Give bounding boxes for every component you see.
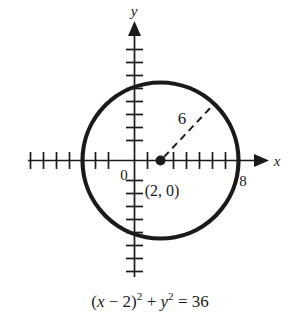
y-axis-group <box>126 21 143 277</box>
equation-caption: (x − 2)2 + y2 = 36 <box>0 292 300 312</box>
origin-label: 0 <box>120 167 128 183</box>
x-axis-label: x <box>273 153 281 169</box>
equation-right-hand-side: 36 <box>192 292 209 311</box>
equation-constant: 2 <box>123 292 132 311</box>
equation-equals-sign: = <box>174 292 192 311</box>
equation-minus-sign: − <box>105 292 123 311</box>
equation-plus-sign: + <box>142 292 160 311</box>
x-axis-group <box>28 152 269 169</box>
center-point-label: (2, 0) <box>145 182 180 200</box>
center-point-dot <box>156 156 166 166</box>
coordinate-plane-svg: x y 0 (2, 0) 6 8 <box>0 0 300 290</box>
radius-dashed-segment <box>164 104 214 157</box>
x-axis-arrowhead <box>254 154 269 167</box>
x-intercept-label: 8 <box>239 173 247 189</box>
radius-label: 6 <box>178 109 187 128</box>
equation-y-variable: y <box>160 292 168 311</box>
y-axis-label: y <box>129 3 138 19</box>
circle-graph-figure: x y 0 (2, 0) 6 8 (x − 2)2 + y2 = 36 <box>0 0 300 327</box>
y-axis-arrowhead <box>128 21 141 36</box>
equation-x-variable: x <box>97 292 105 311</box>
